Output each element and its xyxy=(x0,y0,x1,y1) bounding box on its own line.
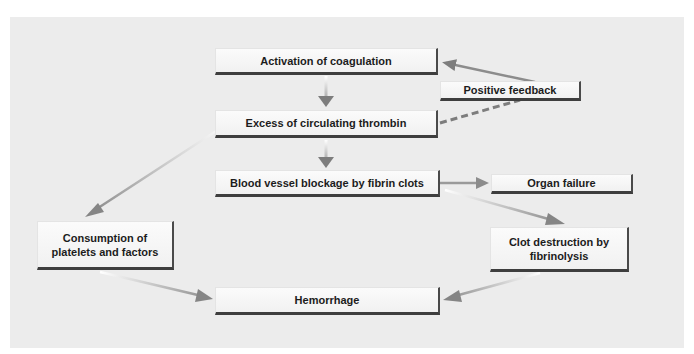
node-label: Activation of coagulation xyxy=(260,54,391,68)
arrow-feedback-to-activation xyxy=(446,63,535,82)
arrow-excess-to-consumption xyxy=(85,124,227,217)
arrow-blockage-to-organ-failure xyxy=(440,177,489,189)
node-organ-failure: Organ failure xyxy=(491,174,633,194)
node-excess-of-circulating-thrombin: Excess of circulating thrombin xyxy=(215,110,438,138)
node-activation-of-coagulation: Activation of coagulation xyxy=(215,48,438,75)
arrow-activation-to-excess xyxy=(318,76,334,107)
arrow-excess-to-blockage xyxy=(318,140,334,168)
arrow-excess-to-feedback-dashed xyxy=(440,100,520,123)
node-label-line2: platelets and factors xyxy=(52,245,159,259)
node-label: Excess of circulating thrombin xyxy=(246,116,407,130)
node-hemorrhage: Hemorrhage xyxy=(215,287,440,315)
arrow-blockage-to-clot-destruction xyxy=(445,190,565,225)
arrow-consumption-to-hemorrhage xyxy=(100,272,213,302)
node-clot-destruction-by-fibrinolysis: Clot destruction by fibrinolysis xyxy=(490,227,629,272)
node-blood-vessel-blockage: Blood vessel blockage by fibrin clots xyxy=(215,170,440,197)
node-consumption-of-platelets-and-factors: Consumption of platelets and factors xyxy=(37,221,174,270)
node-label-line1: Clot destruction by xyxy=(509,235,609,249)
node-positive-feedback: Positive feedback xyxy=(440,81,581,101)
node-label: Positive feedback xyxy=(464,83,557,97)
node-label: Organ failure xyxy=(527,176,595,190)
node-label: Blood vessel blockage by fibrin clots xyxy=(230,176,424,190)
node-label: Hemorrhage xyxy=(295,293,360,307)
node-label-line2: fibrinolysis xyxy=(530,249,589,263)
arrow-clot-to-hemorrhage xyxy=(443,273,540,302)
node-label-line1: Consumption of xyxy=(63,231,147,245)
